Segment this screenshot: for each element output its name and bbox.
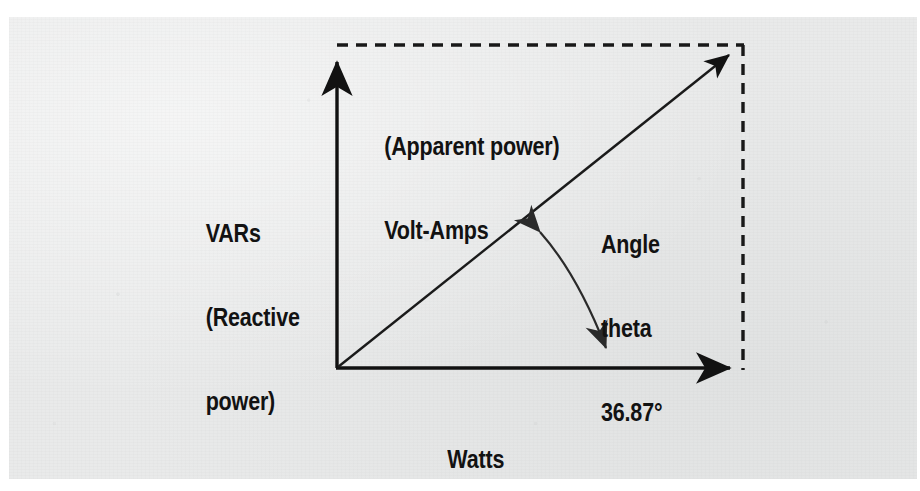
angle-theta-label-line2: theta: [601, 314, 662, 342]
angle-theta-label-line1: Angle: [601, 230, 662, 258]
apparent-power-label-line1: (Apparent power): [384, 132, 559, 160]
reactive-power-label-line3: power): [206, 387, 300, 415]
reactive-power-label-line1: VARs: [206, 219, 300, 247]
reactive-power-label-line2: (Reactive: [206, 303, 300, 331]
true-power-label: Watts (True power): [437, 389, 585, 491]
true-power-label-line1: Watts: [447, 445, 574, 473]
reactive-power-label: VARs (Reactive power): [198, 163, 307, 471]
angle-theta-label: Angle theta 36.87°: [596, 174, 667, 482]
apparent-power-label-line2: Volt-Amps: [384, 216, 559, 244]
apparent-power-label: (Apparent power) Volt-Amps: [370, 76, 574, 300]
power-triangle-figure: (Apparent power) Volt-Amps VARs (Reactiv…: [0, 0, 920, 491]
angle-theta-value: 36.87°: [601, 398, 662, 426]
